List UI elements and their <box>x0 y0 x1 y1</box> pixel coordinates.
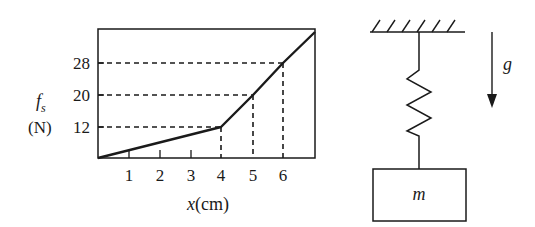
gravity-label: g <box>503 54 512 74</box>
x-tick-label-4: 4 <box>217 166 226 185</box>
x-axis-label: x(cm) <box>186 194 229 215</box>
x-tick-label-2: 2 <box>156 166 165 185</box>
x-tick-label-6: 6 <box>279 166 288 185</box>
figure: 28 20 12 fs (N) 1 2 3 4 5 6 x(cm) m <box>0 0 535 227</box>
y-axis-unit: (N) <box>28 118 52 137</box>
y-tick-label-20: 20 <box>73 86 90 105</box>
mass-label: m <box>413 184 426 204</box>
spring-mass-diagram: m g <box>370 20 512 221</box>
x-tick-label-1: 1 <box>125 166 134 185</box>
y-tick-label-12: 12 <box>73 118 90 137</box>
y-tick-label-28: 28 <box>73 54 90 73</box>
dashed-guides <box>98 63 283 158</box>
x-tick-label-5: 5 <box>249 166 258 185</box>
ceiling-hatch <box>372 20 455 32</box>
gravity-arrow-head-icon <box>487 94 497 108</box>
force-displacement-chart: 28 20 12 fs (N) 1 2 3 4 5 6 x(cm) <box>28 29 315 215</box>
x-tick-label-3: 3 <box>187 166 196 185</box>
y-axis-symbol: fs <box>36 91 46 115</box>
spring <box>407 32 431 169</box>
